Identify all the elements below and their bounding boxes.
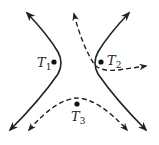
diagram-svg: T1 T2 T3 (0, 0, 159, 145)
label-t3: T3 (71, 109, 86, 126)
label-t2: T2 (107, 53, 121, 70)
point-t3 (74, 101, 79, 106)
point-t2 (98, 59, 103, 64)
diagram-canvas: T1 T2 T3 (0, 0, 159, 145)
left-hyperbola-branch (10, 13, 61, 130)
label-t1: T1 (37, 55, 51, 72)
point-t1 (51, 59, 56, 64)
right-hyperbola-branch (95, 13, 146, 130)
